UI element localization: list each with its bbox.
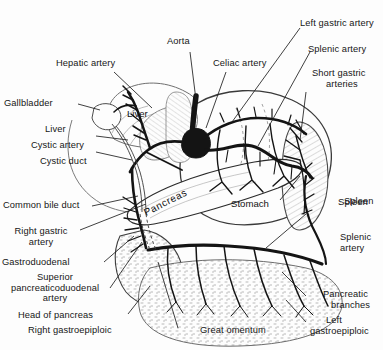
pancreatic-branches-line-1: Pancreatic (323, 289, 368, 299)
left-gastroepiploic-line-1: Left (310, 315, 342, 326)
organ-shapes (68, 83, 342, 346)
splenic-artery-line-1: Splenic (340, 232, 371, 242)
callout-gallbladder: Gallbladder (4, 98, 53, 109)
callout-hepatic-artery: Hepatic artery (56, 58, 115, 69)
callout-left-gastroepiploic: Left gastroepiploic (310, 315, 383, 336)
spd-line-2: pancreaticoduodenal (11, 283, 99, 293)
left-gastroepiploic-line-2: gastroepiploic (310, 326, 369, 336)
right-gastric-line-2: artery (29, 237, 53, 247)
callout-pancreatic-branches: Pancreatic branches (323, 289, 383, 310)
callout-spleen: Spleen (344, 196, 374, 207)
callout-great-omentum: Great omentum (200, 325, 266, 336)
callout-superior-pancreaticoduodenal-artery: Superior pancreaticoduodenal artery (2, 272, 108, 304)
anatomy-figure: Liver Pancreas Stomach Spleen Hepatic ar… (0, 0, 383, 350)
callout-celiac-artery: Celiac artery (213, 58, 266, 69)
leader-aorta (190, 52, 196, 100)
leader-common-bile-duct (92, 196, 138, 206)
short-gastric-line-1: Short gastric (312, 68, 366, 78)
callout-common-bile-duct: Common bile duct (3, 200, 80, 211)
callout-cystic-artery: Cystic artery (31, 140, 84, 151)
leader-cystic-duct (96, 152, 132, 160)
callout-aorta: Aorta (167, 36, 190, 47)
pancreatic-branches-line-2: branches (323, 300, 370, 311)
celiac-trunk-vessel (182, 128, 211, 158)
callout-short-gastric-arteries: Short gastric arteries (312, 68, 378, 89)
callout-right-gastric-artery: Right gastric artery (3, 226, 79, 247)
callout-liver-left: Liver (45, 124, 66, 135)
gallbladder-shape (92, 104, 121, 130)
spd-line-1: Superior (37, 272, 73, 282)
callout-head-of-pancreas: Head of pancreas (18, 310, 93, 321)
spd-line-3: artery (43, 293, 67, 303)
callout-left-gastric-artery: Left gastric artery (300, 18, 374, 29)
callout-right-gastroepiploic: Right gastroepiploic (28, 325, 112, 336)
right-gastric-line-1: Right gastric (15, 226, 68, 236)
callout-splenic-artery-right: Splenic artery (340, 232, 382, 253)
splenic-artery-line-2: artery (340, 243, 364, 253)
callout-gastroduodenal: Gastroduodenal (2, 257, 70, 268)
callout-cystic-duct: Cystic duct (40, 156, 87, 167)
short-gastric-line-2: arteries (312, 79, 358, 90)
organ-label-liver: Liver (127, 108, 148, 119)
organ-label-stomach: Stomach (231, 198, 269, 209)
callout-splenic-artery-top: Splenic artery (308, 44, 366, 55)
